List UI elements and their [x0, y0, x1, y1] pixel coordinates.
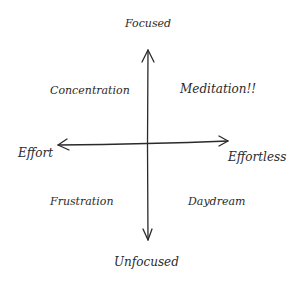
quadrant-label-daydream: Daydream [188, 195, 245, 208]
axis-label-focused: Focused [125, 17, 171, 30]
vertical-axis [148, 50, 149, 240]
horizontal-axis [58, 141, 228, 145]
quadrant-label-concentration: Concentration [50, 84, 130, 97]
quadrant-label-frustration: Frustration [50, 195, 114, 208]
axis-label-effort: Effort [18, 146, 53, 160]
axis-label-effortless: Effortless [228, 150, 286, 164]
axis-label-unfocused: Unfocused [114, 255, 179, 269]
quadrant-label-meditation: Meditation!! [180, 82, 256, 96]
